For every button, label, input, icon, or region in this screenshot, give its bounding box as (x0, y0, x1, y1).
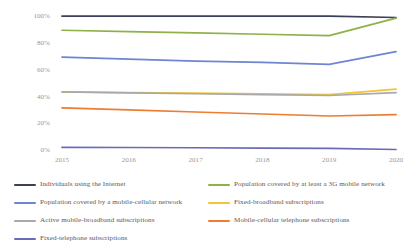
legend-item[interactable]: Individuals using the Internet (14, 176, 214, 194)
chart-legend: Individuals using the InternetPopulation… (0, 176, 412, 252)
legend-item-label: Population covered by a mobile-cellular … (40, 199, 182, 206)
x-axis-tick-labels: 201520162017201820192020 (55, 156, 404, 164)
x-axis-tick-2016: 2016 (122, 156, 137, 164)
y-axis-tick-labels: 100%80%60%40%20%0% (33, 12, 50, 154)
series-line (62, 52, 396, 65)
legend-swatch-icon (14, 238, 36, 241)
legend-item[interactable]: Population covered by a mobile-cellular … (14, 194, 214, 212)
series-lines (62, 16, 396, 149)
series-line (62, 18, 396, 35)
legend-swatch-icon (208, 184, 230, 187)
y-axis-tick-100%: 100% (33, 12, 50, 20)
x-axis-tick-2019: 2019 (322, 156, 337, 164)
series-line (62, 147, 396, 149)
series-line (62, 16, 396, 17)
legend-item-label: Fixed-broadband subscriptions (234, 199, 324, 206)
legend-item-label: Individuals using the Internet (40, 181, 125, 188)
legend-item[interactable]: Population covered by at least a 3G mobi… (208, 176, 412, 194)
plot-svg: 100%80%60%40%20%0% 201520162017201820192… (0, 0, 412, 172)
legend-item[interactable]: Mobile-cellular telephone subscriptions (208, 212, 412, 230)
legend-item-label: Fixed-telephone subscriptions (40, 235, 127, 242)
y-axis-tick-20%: 20% (37, 119, 50, 127)
legend-swatch-icon (208, 220, 230, 223)
legend-item-label: Mobile-cellular telephone subscriptions (234, 217, 349, 224)
y-axis-tick-60%: 60% (37, 66, 50, 74)
y-axis-tick-40%: 40% (37, 93, 50, 101)
legend-swatch-icon (208, 202, 230, 205)
legend-swatch-icon (14, 202, 36, 205)
x-axis-tick-2015: 2015 (55, 156, 70, 164)
x-axis-tick-2017: 2017 (189, 156, 204, 164)
y-axis-tick-0%: 0% (41, 146, 51, 154)
legend-item[interactable]: Fixed-telephone subscriptions (14, 230, 214, 248)
series-line (62, 108, 396, 116)
legend-swatch-icon (14, 220, 36, 223)
legend-column-left: Individuals using the InternetPopulation… (14, 176, 214, 248)
legend-item-label: Population covered by at least a 3G mobi… (234, 181, 385, 188)
legend-item[interactable]: Active mobile-broadband subscriptions (14, 212, 214, 230)
plot-area: 100%80%60%40%20%0% 201520162017201820192… (0, 0, 412, 172)
legend-swatch-icon (14, 184, 36, 187)
y-axis-tick-80%: 80% (37, 39, 50, 47)
line-chart: 100%80%60%40%20%0% 201520162017201820192… (0, 0, 412, 252)
x-axis-tick-2018: 2018 (255, 156, 270, 164)
legend-item[interactable]: Fixed-broadband subscriptions (208, 194, 412, 212)
x-axis-tick-2020: 2020 (389, 156, 404, 164)
legend-column-right: Population covered by at least a 3G mobi… (208, 176, 412, 230)
legend-item-label: Active mobile-broadband subscriptions (40, 217, 155, 224)
